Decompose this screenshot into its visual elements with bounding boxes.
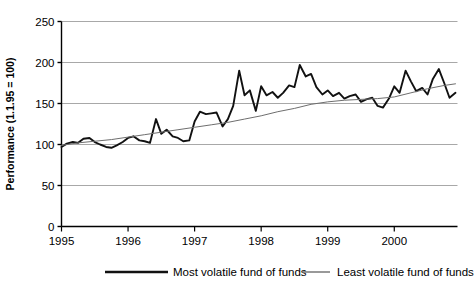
chart-legend: Most volatile fund of fundsLeast volatil… [105,266,474,278]
x-axis-tick-label: 1995 [49,235,75,247]
x-axis-tick-label: 1998 [248,235,274,247]
series-line-1 [62,84,456,146]
y-axis-tick-label: 50 [42,180,55,192]
y-axis-tick-label: 150 [35,98,54,110]
y-axis-tick-label: 0 [48,221,54,233]
y-axis-tick-label: 250 [35,16,54,28]
x-axis-tick-label: 1996 [115,235,141,247]
x-axis: 199519961997199819992000 [49,227,458,247]
x-axis-tick-label: 1997 [182,235,208,247]
legend-label-0: Most volatile fund of funds [173,266,307,278]
series-line-0 [62,65,456,148]
x-axis-tick-label: 2000 [381,235,407,247]
gridlines [62,22,458,186]
y-axis-tick-label: 100 [35,139,54,151]
legend-label-1: Least volatile fund of funds [337,266,474,278]
data-series [62,65,456,148]
x-axis-tick-label: 1999 [315,235,341,247]
y-axis-title-text: Performance (1.1.95 = 100) [4,58,16,191]
performance-line-chart: 050100150200250 199519961997199819992000… [0,0,475,292]
y-axis-title: Performance (1.1.95 = 100) [4,58,16,191]
y-axis-tick-label: 200 [35,57,54,69]
y-axis: 050100150200250 [35,16,61,233]
chart-container: 050100150200250 199519961997199819992000… [0,0,475,292]
